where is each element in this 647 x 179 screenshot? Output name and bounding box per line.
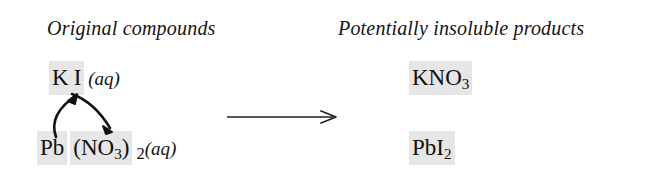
ion-nitrate-subscript: 3 xyxy=(114,145,122,162)
formula-potassium-nitrate: KNO3 xyxy=(410,66,471,89)
ion-lead: Pb xyxy=(40,135,64,160)
heading-potentially-insoluble-products: Potentially insoluble products xyxy=(338,18,584,38)
reaction-diagram: Original compounds Potentially insoluble… xyxy=(0,0,647,179)
ion-nitrate-highlight: (NO3) xyxy=(70,131,132,165)
state-symbol-aqueous: (aq) xyxy=(88,68,120,89)
formula-pbi2-main: PbI xyxy=(412,135,444,160)
stoichiometric-subscript-2: 2 xyxy=(136,144,144,163)
swap-up-arrowhead xyxy=(68,94,77,104)
ion-lead-highlight: Pb xyxy=(37,131,67,165)
cation-anion-swap-down-arrow xyxy=(72,94,110,128)
ion-potassium: K xyxy=(52,65,69,90)
formula-potassium-iodide: KI(aq) xyxy=(50,66,120,89)
formula-kno3-main: KNO xyxy=(412,65,462,90)
formula-kno3-subscript: 3 xyxy=(462,75,470,92)
formula-pbi2-highlight: PbI2 xyxy=(409,131,455,165)
ion-iodide: I xyxy=(74,65,82,90)
formula-pbi2-subscript: 2 xyxy=(444,145,452,162)
ion-nitrate-close: ) xyxy=(122,135,130,160)
formula-kno3-highlight: KNO3 xyxy=(409,61,472,95)
formula-ki-ions: KI xyxy=(49,61,84,95)
heading-original-compounds: Original compounds xyxy=(47,18,216,38)
reaction-arrow-head xyxy=(321,111,336,123)
formula-lead-nitrate: Pb(NO3)2(aq) xyxy=(38,136,176,159)
formula-lead-iodide: PbI2 xyxy=(410,136,454,159)
state-symbol-aqueous: (aq) xyxy=(145,138,177,159)
ion-nitrate-open: (NO xyxy=(73,135,114,160)
